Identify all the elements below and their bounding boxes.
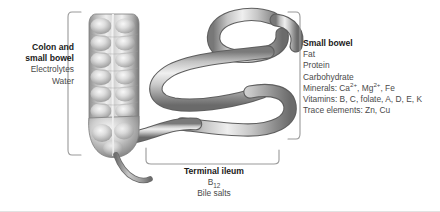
colon-label-title-line1: Colon and	[0, 42, 74, 53]
small-bowel-loops	[120, 15, 297, 138]
label-terminal-ileum: Terminal ileum B12 Bile salts	[150, 166, 278, 200]
small-bowel-label-title: Small bowel	[303, 38, 422, 49]
label-small-bowel: Small bowel Fat Protein Carbohydrate Min…	[303, 38, 422, 116]
small-bowel-item-minerals: Minerals: Ca2+, Mg2+, Fe	[303, 83, 422, 94]
label-colon-and-small-bowel: Colon and small bowel Electrolytes Water	[0, 42, 74, 87]
colon-label-item-electrolytes: Electrolytes	[0, 64, 74, 75]
bottom-bracket	[146, 148, 279, 164]
minerals-mid: , Mg	[357, 83, 373, 93]
appendix	[116, 155, 150, 180]
terminal-ileum-item-b12: B12	[150, 177, 278, 188]
minerals-suffix: , Fe	[380, 83, 394, 93]
small-bowel-item-carbohydrate: Carbohydrate	[303, 72, 422, 83]
small-bowel-item-protein: Protein	[303, 60, 422, 71]
terminal-ileum-item-bile-salts: Bile salts	[150, 188, 278, 199]
cecum	[89, 116, 139, 158]
minerals-prefix: Minerals: Ca	[303, 83, 350, 93]
terminal-ileum-label-title: Terminal ileum	[150, 166, 278, 177]
small-bowel-item-fat: Fat	[303, 49, 422, 60]
colon-label-item-water: Water	[0, 76, 74, 87]
colon-label-title-line2: small bowel	[0, 53, 74, 64]
small-bowel-item-trace-elements: Trace elements: Zn, Cu	[303, 105, 422, 116]
nutrient-absorption-diagram: Colon and small bowel Electrolytes Water…	[0, 0, 440, 212]
small-bowel-item-vitamins: Vitamins: B, C, folate, A, D, E, K	[303, 94, 422, 105]
